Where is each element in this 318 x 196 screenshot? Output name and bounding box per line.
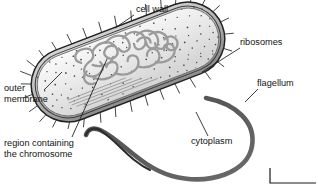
label-flagellum: flagellum [257, 78, 294, 88]
label-cytoplasm: cytoplasm [191, 136, 233, 146]
label-chromosome-region-line2: the chromosome [4, 149, 72, 159]
bacterial-cell-diagram: cell wall ribosomes flagellum outer memb… [0, 0, 318, 196]
label-chromosome-region-line1: region containing [4, 138, 74, 148]
label-ribosomes: ribosomes [240, 37, 283, 47]
label-cell-wall: cell wall [136, 4, 168, 14]
label-outer-membrane-line2: membrane [4, 94, 48, 104]
label-outer-membrane-line1: outer [4, 83, 25, 93]
